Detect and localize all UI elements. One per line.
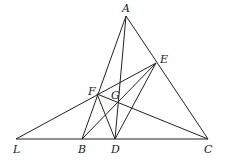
segments bbox=[16, 16, 208, 139]
point-label-G: G bbox=[111, 89, 120, 102]
geometry-diagram: AEFGLBDC bbox=[0, 0, 226, 163]
point-label-A: A bbox=[121, 2, 130, 15]
segment-AC bbox=[126, 16, 208, 139]
point-label-E: E bbox=[159, 53, 168, 66]
point-label-C: C bbox=[204, 143, 213, 156]
segment-AB bbox=[82, 16, 126, 139]
point-label-D: D bbox=[110, 143, 120, 156]
point-label-B: B bbox=[77, 143, 86, 156]
segment-AD bbox=[115, 16, 126, 139]
point-label-L: L bbox=[12, 143, 20, 156]
point-label-F: F bbox=[87, 85, 96, 98]
